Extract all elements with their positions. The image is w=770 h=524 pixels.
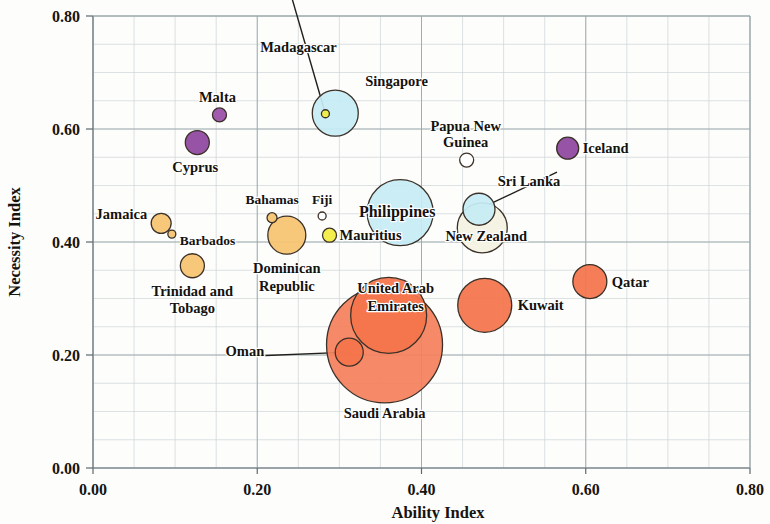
x-axis-title: Ability Index (391, 503, 485, 522)
y-tick-label: 0.80 (52, 8, 80, 25)
bubble-label: Sri Lanka (498, 173, 561, 189)
y-tick-label: 0.00 (52, 460, 80, 477)
y-tick-label: 0.40 (52, 234, 80, 251)
bubble-label: Trinidad and (152, 283, 234, 299)
bubble-point (573, 265, 607, 299)
bubble-label: Philippines (359, 203, 435, 221)
bubble-label: Kuwait (518, 297, 564, 313)
bubble-point (557, 137, 579, 159)
x-tick-label: 0.80 (736, 481, 764, 498)
x-tick-label: 0.20 (243, 481, 271, 498)
chart-canvas: MadagascarSingaporeMaltaCyprusPapua NewG… (0, 0, 770, 524)
x-tick-label: 0.40 (408, 481, 436, 498)
bubble-label: New Zealand (445, 228, 527, 244)
bubble-point (318, 212, 326, 220)
bubble-point (267, 213, 277, 223)
bubble-point (321, 110, 329, 118)
bubble-point (212, 108, 226, 122)
bubble-label: Republic (259, 278, 315, 294)
bubble-label: Guinea (443, 134, 489, 150)
bubble-label: Oman (226, 343, 265, 359)
y-axis-tick-labels: 0.000.200.400.600.80 (52, 8, 80, 477)
bubble-label: Singapore (365, 73, 428, 89)
bubble-label: Saudi Arabia (344, 405, 427, 421)
y-axis-title: Necessity Index (5, 186, 24, 296)
bubble-label: Tobago (170, 300, 215, 316)
bubble-label: United Arab (357, 280, 434, 296)
bubble-label: Madagascar (260, 39, 337, 55)
y-tick-label: 0.60 (52, 121, 80, 138)
x-tick-label: 0.00 (79, 481, 107, 498)
bubble-label: Bahamas (245, 192, 298, 207)
bubble-label: Iceland (583, 140, 629, 156)
x-tick-label: 0.60 (572, 481, 600, 498)
bubble-point (168, 230, 176, 238)
bubble-label: Papua New (430, 118, 501, 134)
bubble-label: Jamaica (96, 206, 148, 222)
bubble-label: Malta (199, 89, 237, 105)
bubble-label: Barbados (180, 233, 236, 248)
bubble-point (185, 131, 209, 155)
bubble-point (323, 228, 337, 242)
bubble-point (180, 254, 204, 278)
bubble-point (463, 193, 495, 225)
bubble-label: Qatar (612, 274, 650, 290)
bubble-label: Cyprus (172, 159, 218, 175)
bubble-chart: MadagascarSingaporeMaltaCyprusPapua NewG… (0, 0, 770, 524)
bubble-label: Emirates (367, 298, 424, 314)
bubble-point (151, 213, 171, 233)
bubble-label: Mauritius (340, 227, 402, 243)
bubble-label: Dominican (253, 260, 321, 276)
bubble-point (335, 338, 363, 366)
bubble-label: Fiji (312, 192, 332, 207)
bubble-point (458, 278, 512, 332)
bubble-point (312, 90, 358, 136)
x-axis-tick-labels: 0.000.200.400.600.80 (79, 481, 764, 498)
y-tick-label: 0.20 (52, 347, 80, 364)
bubble-point (460, 153, 474, 167)
